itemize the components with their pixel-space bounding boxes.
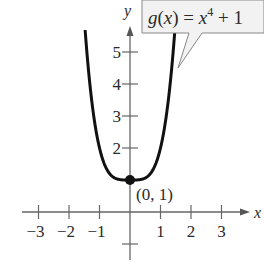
- x-axis-arrow-icon: [240, 209, 250, 216]
- point-label: (0, 1): [136, 185, 173, 204]
- x-tick-label: 2: [187, 222, 196, 241]
- x-axis-label: x: [253, 204, 261, 221]
- y-tick-label: 4: [113, 75, 122, 94]
- y-axis-label: y: [122, 2, 132, 20]
- x-tick-label: −2: [57, 222, 75, 241]
- function-label: g(x) = x4 + 1: [148, 5, 243, 29]
- y-axis-arrow-icon: [127, 26, 134, 36]
- function-callout: g(x) = x4 + 1: [142, 0, 264, 68]
- y-tick-label: 5: [113, 43, 122, 62]
- y-tick-labels: 2345: [113, 43, 122, 158]
- point-marker: [125, 175, 135, 185]
- x-tick-label: 1: [156, 222, 165, 241]
- y-tick-label: 2: [113, 139, 122, 158]
- y-tick-label: 3: [113, 107, 122, 126]
- x-tick-label: −1: [87, 222, 105, 241]
- chart-canvas: −3−2−1123 2345 x y (0, 1) g(x) = x4 + 1: [0, 0, 264, 276]
- axes: [22, 34, 244, 260]
- x-tick-labels: −3−2−1123: [26, 222, 225, 241]
- x-tick-label: −3: [26, 222, 44, 241]
- x-tick-label: 3: [217, 222, 226, 241]
